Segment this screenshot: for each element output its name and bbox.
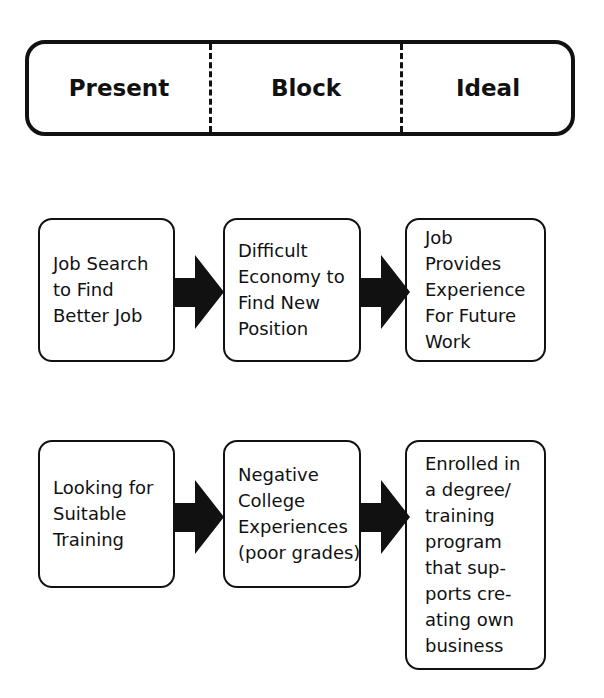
box-text: Job Search xyxy=(53,251,173,277)
right-arrow-icon xyxy=(175,480,225,555)
row1-present-box: Job Search to Find Better Job xyxy=(38,218,175,362)
box-text: Economy to xyxy=(238,264,359,290)
box-text: to Find xyxy=(53,277,173,303)
present-block-ideal-header: Present Block Ideal xyxy=(25,40,575,136)
box-text: Position xyxy=(238,316,359,342)
box-text: Difficult xyxy=(238,238,359,264)
row1-ideal-box: Job Provides Experience For Future Work xyxy=(405,218,546,362)
box-text: program xyxy=(425,529,544,555)
header-present: Present xyxy=(29,44,209,132)
box-text: Negative xyxy=(238,462,359,488)
right-arrow-icon xyxy=(361,480,411,555)
right-arrow-icon xyxy=(175,255,225,330)
box-text: Looking for xyxy=(53,475,173,501)
header-block: Block xyxy=(212,44,400,132)
row1-block-box: Difficult Economy to Find New Position xyxy=(223,218,361,362)
box-text: Work xyxy=(425,329,544,355)
box-text: Find New xyxy=(238,290,359,316)
row2-present-box: Looking for Suitable Training xyxy=(38,440,175,588)
box-text: (poor grades) xyxy=(238,540,359,566)
box-text: Experiences xyxy=(238,514,359,540)
box-text: ating own xyxy=(425,607,544,633)
right-arrow-icon xyxy=(361,255,411,330)
box-text: business xyxy=(425,633,544,659)
box-text: College xyxy=(238,488,359,514)
box-text: For Future xyxy=(425,303,544,329)
box-text: Better Job xyxy=(53,303,173,329)
box-text: Suitable xyxy=(53,501,173,527)
box-text: that sup- xyxy=(425,555,544,581)
header-ideal: Ideal xyxy=(403,44,573,132)
box-text: Training xyxy=(53,527,173,553)
box-text: a degree/ xyxy=(425,477,544,503)
box-text: ports cre- xyxy=(425,581,544,607)
box-text: Job xyxy=(425,225,544,251)
row2-block-box: Negative College Experiences (poor grade… xyxy=(223,440,361,588)
box-text: Provides xyxy=(425,251,544,277)
box-text: Enrolled in xyxy=(425,451,544,477)
box-text: Experience xyxy=(425,277,544,303)
row2-ideal-box: Enrolled in a degree/ training program t… xyxy=(405,440,546,670)
box-text: training xyxy=(425,503,544,529)
